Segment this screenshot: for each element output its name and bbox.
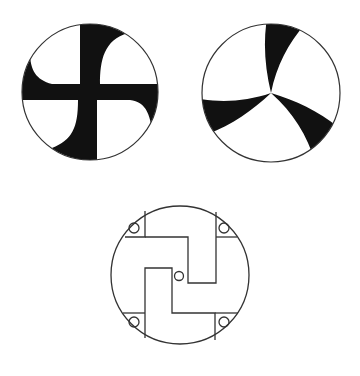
dot-bottom-left <box>129 317 139 327</box>
dot-top-left <box>129 223 139 233</box>
figure-four-arm-whirl <box>20 20 161 165</box>
dot-top-right <box>219 223 229 233</box>
dot-bottom-right <box>219 317 229 327</box>
lower-meander <box>145 268 215 340</box>
figure-canvas <box>0 0 360 376</box>
figure-line-swastika-with-dots <box>111 206 249 344</box>
figure-six-arm-whirl <box>186 18 340 165</box>
dot-center <box>175 272 184 281</box>
